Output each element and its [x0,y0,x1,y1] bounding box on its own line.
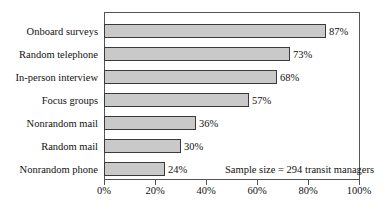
category-label-0: Onboard surveys [0,27,98,38]
xtick-label-2: 40% [196,186,215,197]
category-label-1: Random telephone [0,50,98,61]
bar-value-5: 30% [184,142,203,153]
bar-value-3: 57% [252,96,271,107]
xtick-label-5: 100% [347,186,372,197]
xtick-label-1: 20% [145,186,164,197]
sample-size-annotation: Sample size = 294 transit managers [225,165,374,176]
bar-2 [104,70,277,84]
bar-chart-figure: Onboard surveys Random telephone In-pers… [0,0,385,216]
bar-0 [104,24,326,38]
bar-6 [104,162,165,176]
category-label-4: Nonrandom mail [0,119,98,130]
bar-3 [104,93,249,107]
bar-value-6: 24% [168,165,187,176]
bar-value-0: 87% [329,27,348,38]
bar-value-1: 73% [293,50,312,61]
bar-value-4: 36% [199,119,218,130]
category-label-6: Nonrandom phone [0,165,98,176]
xtick-label-4: 80% [298,186,317,197]
bar-4 [104,116,196,130]
category-label-2: In-person interview [0,73,98,84]
bar-5 [104,139,181,153]
xtick-label-3: 60% [247,186,266,197]
bar-value-2: 68% [280,73,299,84]
bar-1 [104,47,290,61]
category-label-5: Random mail [0,142,98,153]
category-label-3: Focus groups [0,96,98,107]
xtick-label-0: 0% [97,186,111,197]
